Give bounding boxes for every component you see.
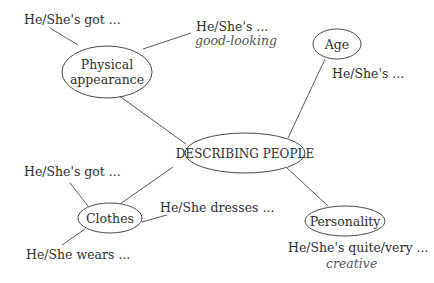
line-clothes-dresses bbox=[142, 215, 167, 222]
line-personality-center bbox=[287, 168, 328, 206]
physical-example: good-looking bbox=[195, 34, 277, 48]
mind-map-canvas: DESCRIBING PEOPLE Physical appearance He… bbox=[0, 0, 434, 283]
physical-node-label: Physical appearance bbox=[70, 57, 144, 87]
line-age-center bbox=[288, 59, 325, 138]
clothes-phrase-dresses: He/She dresses ... bbox=[160, 201, 274, 215]
line-clothes-got bbox=[70, 183, 88, 206]
line-clothes-center bbox=[120, 167, 173, 204]
age-phrase-is: He/She's ... bbox=[332, 67, 404, 81]
physical-label-line1: Physical bbox=[70, 57, 144, 72]
center-node-label: DESCRIBING PEOPLE bbox=[176, 147, 315, 162]
line-physical-looking bbox=[143, 33, 191, 49]
personality-example: creative bbox=[326, 257, 377, 271]
personality-phrase-quite-very: He/She's quite/very ... bbox=[288, 241, 428, 255]
personality-node-label: Personality bbox=[310, 214, 381, 229]
line-clothes-wears bbox=[62, 229, 85, 245]
physical-label-line2: appearance bbox=[70, 72, 144, 87]
line-physical-got bbox=[50, 28, 78, 45]
physical-phrase-is: He/She's ... bbox=[196, 20, 268, 34]
clothes-phrase-got: He/She's got ... bbox=[24, 165, 121, 179]
clothes-phrase-wears: He/She wears ... bbox=[26, 248, 130, 262]
line-physical-center bbox=[111, 90, 186, 144]
clothes-node-label: Clothes bbox=[86, 211, 134, 226]
age-node-label: Age bbox=[325, 37, 349, 52]
physical-phrase-got: He/She's got ... bbox=[24, 13, 121, 27]
